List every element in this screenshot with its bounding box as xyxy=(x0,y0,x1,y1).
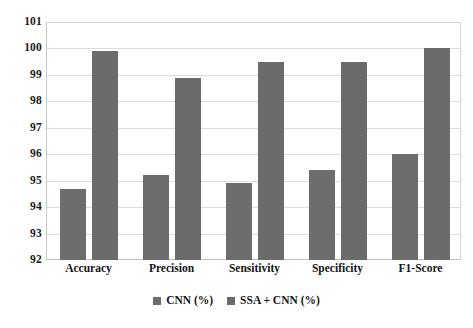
legend-label: CNN (%) xyxy=(166,295,213,307)
bar-f1-score-series-1 xyxy=(392,154,418,260)
x-axis: AccuracyPrecisionSensitivitySpecificityF… xyxy=(47,263,460,281)
y-axis: 1011009998979695949392 xyxy=(0,22,42,260)
y-axis-tick-label: 96 xyxy=(2,148,42,160)
bar-accuracy-series-1 xyxy=(60,189,86,260)
y-axis-tick-label: 94 xyxy=(2,201,42,213)
legend-swatch-icon xyxy=(153,297,161,305)
bar-f1-score-series-2 xyxy=(424,48,450,260)
x-axis-tick-label: Sensitivity xyxy=(213,263,296,275)
legend-item-2[interactable]: SSA + CNN (%) xyxy=(227,295,320,307)
legend-swatch-icon xyxy=(227,297,235,305)
y-axis-tick-label: 100 xyxy=(2,42,42,54)
bars-layer xyxy=(47,22,460,260)
legend-item-1[interactable]: CNN (%) xyxy=(153,295,213,307)
bar-specificity-series-1 xyxy=(309,170,335,260)
bar-specificity-series-2 xyxy=(341,62,367,260)
y-axis-tick-label: 93 xyxy=(2,228,42,240)
chart-legend: CNN (%)SSA + CNN (%) xyxy=(0,295,473,307)
y-axis-tick-label: 98 xyxy=(2,95,42,107)
bar-precision-series-1 xyxy=(143,175,169,260)
x-axis-tick-label: Accuracy xyxy=(47,263,130,275)
y-axis-tick-label: 92 xyxy=(2,254,42,266)
bar-precision-series-2 xyxy=(175,78,201,260)
x-axis-tick-label: F1-Score xyxy=(379,263,462,275)
legend-label: SSA + CNN (%) xyxy=(240,295,320,307)
y-axis-tick-label: 99 xyxy=(2,69,42,81)
y-axis-tick-label: 95 xyxy=(2,175,42,187)
x-axis-tick-label: Precision xyxy=(130,263,213,275)
bar-sensitivity-series-1 xyxy=(226,183,252,260)
bar-sensitivity-series-2 xyxy=(258,62,284,260)
y-axis-tick-label: 97 xyxy=(2,122,42,134)
bar-accuracy-series-2 xyxy=(92,51,118,260)
y-axis-tick-label: 101 xyxy=(2,16,42,28)
x-axis-tick-label: Specificity xyxy=(296,263,379,275)
bar-chart: 1011009998979695949392 AccuracyPrecision… xyxy=(0,0,473,328)
